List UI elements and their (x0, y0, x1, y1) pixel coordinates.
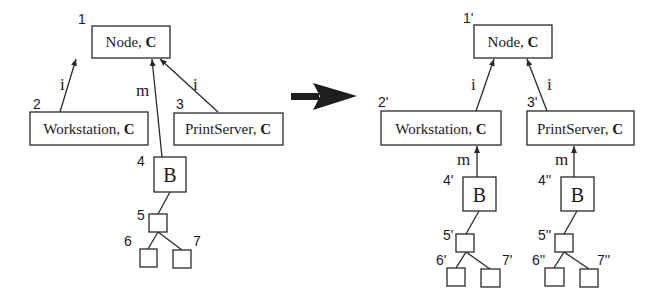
left-node-4-label: B (163, 164, 176, 186)
left-edge-label-4-1: m (136, 81, 149, 100)
left-edge-5-4 (158, 192, 170, 214)
right-node-7a-box (481, 269, 500, 287)
right-tree: i i m m Node, C 1' Workstation, C 2' Pri… (378, 10, 634, 287)
right-node-4b-id: 4'' (538, 172, 551, 188)
right-node-1-label: Node, C (488, 34, 539, 50)
left-node-3-id: 3 (176, 96, 184, 112)
left-node-1-id: 1 (78, 11, 86, 27)
right-node-6b-box (545, 268, 564, 286)
right-node-4b-label: B (571, 184, 584, 206)
left-node-2-id: 2 (33, 96, 41, 112)
right-edge-7b-5b (564, 252, 589, 269)
left-node-3-label: PrintServer, C (185, 121, 271, 137)
right-edge-5a-4a (466, 211, 479, 234)
diagram-canvas: i m i Node, C 1 Workstation, C 2 PrintSe… (0, 0, 663, 298)
left-node-5-id: 5 (137, 207, 145, 223)
right-node-1-id: 1' (463, 10, 473, 26)
left-edge-4-1 (152, 59, 162, 157)
right-edge-6a-5a (456, 252, 466, 268)
left-tree: i m i Node, C 1 Workstation, C 2 PrintSe… (30, 11, 283, 268)
right-node-6a-box (447, 268, 465, 286)
right-edge-label-4a-2: m (457, 150, 470, 169)
left-node-7-id: 7 (193, 233, 201, 249)
right-node-5a-id: 5' (443, 227, 453, 243)
left-node-2-label: Workstation, C (43, 121, 134, 137)
left-edge-7-5 (158, 232, 182, 250)
right-edge-label-2-1: i (471, 75, 476, 94)
left-edge-label-3-1: i (193, 75, 198, 94)
left-edge-6-5 (148, 232, 158, 249)
right-edge-5b-4b (564, 211, 577, 234)
right-node-7b-id: 7'' (597, 252, 610, 268)
right-node-3-label: PrintServer, C (537, 121, 623, 137)
left-edge-3-1 (160, 59, 218, 112)
right-node-3-id: 3' (527, 94, 537, 110)
left-edge-label-2-1: i (60, 75, 65, 94)
right-node-7b-box (580, 269, 598, 287)
right-node-2-id: 2' (378, 94, 388, 110)
right-node-4a-id: 4' (443, 172, 453, 188)
right-edge-label-3-1: i (547, 75, 552, 94)
left-node-7-box (173, 250, 191, 268)
right-node-2-label: Workstation, C (395, 121, 486, 137)
left-node-5-box (149, 214, 167, 232)
right-node-5a-box (456, 234, 474, 252)
right-node-6a-id: 6' (436, 252, 446, 268)
right-node-7a-id: 7' (502, 252, 512, 268)
right-node-6b-id: 6'' (532, 252, 545, 268)
right-edge-6b-5b (554, 252, 564, 268)
transform-arrow-icon (291, 83, 357, 110)
right-node-5b-id: 5'' (538, 227, 551, 243)
right-node-4a-label: B (473, 184, 486, 206)
right-edge-2-1 (476, 59, 494, 111)
left-node-4-id: 4 (137, 153, 145, 169)
right-edge-7a-5a (466, 252, 490, 269)
right-node-5b-box (555, 234, 573, 252)
left-node-6-box (140, 249, 157, 267)
left-node-1-label: Node, C (106, 34, 157, 50)
right-edge-label-4b-3: m (555, 150, 568, 169)
left-node-6-id: 6 (124, 233, 132, 249)
